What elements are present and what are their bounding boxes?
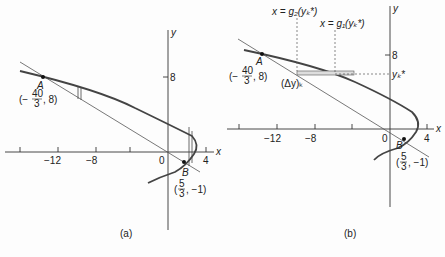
point-b-label: B <box>182 167 189 178</box>
svg-text:, 8): , 8) <box>43 94 57 105</box>
panel-b: y x 8 −12 −8 0 4 A (− 40 3 , 8) B ( 5 3 … <box>227 3 442 239</box>
svg-text:, −1): , −1) <box>186 184 206 195</box>
svg-text:(: ( <box>174 184 178 195</box>
svg-text:3: 3 <box>401 161 407 172</box>
x-ticks <box>20 147 206 152</box>
delta-y-strip <box>297 71 354 75</box>
x-axis-label: x <box>435 123 442 134</box>
point-b-coords: ( 5 3 , −1) <box>396 151 428 172</box>
point-b-coords: ( 5 3 , −1) <box>174 178 206 199</box>
point-a <box>41 75 45 79</box>
x-tick-label-4: 4 <box>424 133 430 144</box>
svg-text:3: 3 <box>179 188 185 199</box>
x-axis-label: x <box>215 146 222 157</box>
y-axis-label: y <box>392 3 399 14</box>
caption-a: (a) <box>120 228 132 239</box>
svg-text:, −1): , −1) <box>408 157 428 168</box>
y-tick-label-8: 8 <box>170 72 176 83</box>
svg-text:3: 3 <box>244 75 250 86</box>
x-ticks <box>239 124 427 129</box>
x-tick-label-neg12: −12 <box>44 155 61 166</box>
svg-text:, 8): , 8) <box>253 71 267 82</box>
x-tick-label-neg8: −8 <box>305 133 317 144</box>
point-a-coords: (− 40 3 , 8) <box>19 88 57 109</box>
y-axis-label: y <box>170 27 177 38</box>
point-b <box>182 160 186 164</box>
yk-label: yₖ* <box>391 69 406 80</box>
x-tick-label-0: 0 <box>159 155 165 166</box>
svg-text:3: 3 <box>34 98 40 109</box>
delta-y-label: (Δy)ₖ <box>281 78 303 89</box>
x-tick-label-0: 0 <box>382 133 388 144</box>
x-tick-label-neg12: −12 <box>264 133 281 144</box>
x-tick-label-4: 4 <box>203 155 209 166</box>
caption-b: (b) <box>344 228 356 239</box>
g2-label: x = g₂(yₖ*) <box>271 6 317 17</box>
point-a-coords: (− 40 3 , 8) <box>229 65 267 86</box>
y-tick-label-8: 8 <box>392 50 398 61</box>
svg-text:(−: (− <box>229 71 238 82</box>
point-a-label: A <box>255 56 263 67</box>
figure-canvas: y x 8 −12 −8 0 4 A (− 40 3 , 8) B ( 5 3 … <box>0 0 445 257</box>
panel-a: y x 8 −12 −8 0 4 A (− 40 3 , 8) B ( 5 3 … <box>5 27 222 239</box>
svg-text:(: ( <box>396 157 400 168</box>
point-b-label: B <box>396 140 403 151</box>
x-tick-label-neg8: −8 <box>86 155 98 166</box>
svg-text:(−: (− <box>19 94 28 105</box>
g1-label: x = g₁(yₖ*) <box>319 18 365 29</box>
parabola-curve <box>20 71 197 183</box>
